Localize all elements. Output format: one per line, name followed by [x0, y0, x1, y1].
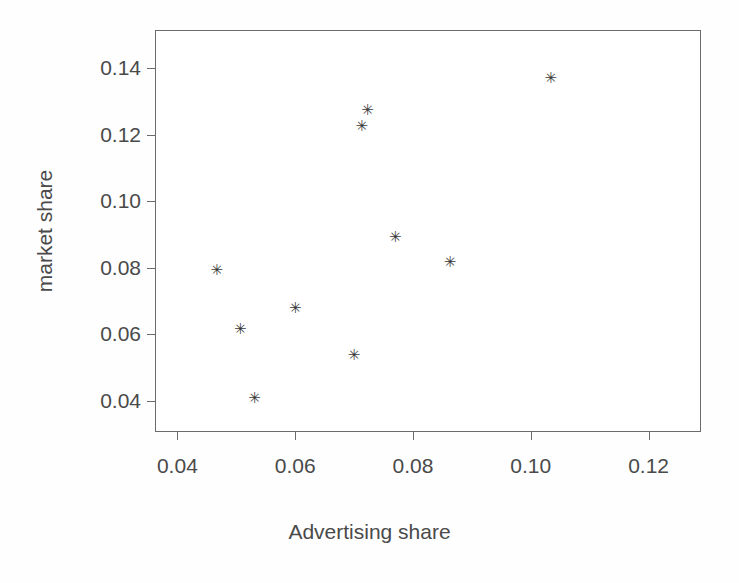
data-point: ✳ [443, 255, 457, 269]
x-axis-tick-label: 0.04 [157, 454, 198, 478]
data-point: ✳ [233, 322, 247, 336]
y-axis-tick [147, 268, 155, 269]
x-axis-title: Advertising share [0, 520, 739, 544]
x-axis-tick [649, 432, 650, 440]
y-axis-tick-label: 0.14 [100, 56, 141, 80]
data-point: ✳ [347, 348, 361, 362]
x-axis-tick-label: 0.06 [275, 454, 316, 478]
y-axis-tick [147, 135, 155, 136]
data-point: ✳ [248, 391, 262, 405]
data-point: ✳ [355, 119, 369, 133]
data-point: ✳ [544, 71, 558, 85]
y-axis-tick-label: 0.04 [100, 389, 141, 413]
y-axis-tick [147, 201, 155, 202]
y-axis-tick-label: 0.10 [100, 189, 141, 213]
y-axis-tick [147, 334, 155, 335]
y-axis-tick [147, 68, 155, 69]
y-axis-tick [147, 401, 155, 402]
y-axis-title: market share [33, 170, 57, 293]
x-axis-tick-label: 0.08 [393, 454, 434, 478]
x-axis-tick [413, 432, 414, 440]
data-point: ✳ [361, 103, 375, 117]
data-point: ✳ [210, 263, 224, 277]
data-point: ✳ [388, 230, 402, 244]
x-axis-tick [177, 432, 178, 440]
x-axis-tick-label: 0.12 [628, 454, 669, 478]
x-axis-tick [295, 432, 296, 440]
y-axis-tick-label: 0.06 [100, 322, 141, 346]
x-axis-tick [531, 432, 532, 440]
y-axis-tick-label: 0.08 [100, 256, 141, 280]
scatter-plot-figure: ✳✳✳✳✳✳✳✳✳✳ 0.040.060.080.100.120.14 0.04… [0, 0, 739, 583]
y-axis-tick-label: 0.12 [100, 123, 141, 147]
plot-area: ✳✳✳✳✳✳✳✳✳✳ 0.040.060.080.100.120.14 0.04… [155, 30, 701, 432]
x-axis-tick-label: 0.10 [510, 454, 551, 478]
data-point: ✳ [288, 301, 302, 315]
